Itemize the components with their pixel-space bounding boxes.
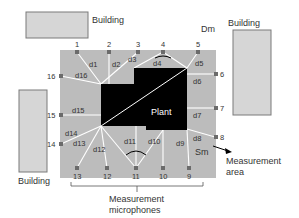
- microphone-11: [134, 166, 138, 170]
- label-d10: d10: [148, 137, 161, 146]
- label-d3: d3: [128, 55, 136, 64]
- microphones-label-line1: Measurement: [109, 194, 165, 204]
- mic-label-3: 3: [136, 40, 140, 49]
- label-d11: d11: [124, 137, 136, 146]
- mic-label-15: 15: [47, 111, 55, 120]
- mic-label-8: 8: [220, 133, 224, 142]
- microphone-10: [161, 166, 165, 170]
- microphone-8: [214, 135, 218, 139]
- plant-measurement-diagram: Building Building Building Dm Plant d1 d…: [0, 0, 299, 218]
- microphone-5: [196, 50, 200, 54]
- label-d5: d5: [195, 59, 203, 68]
- label-d12: d12: [93, 145, 106, 154]
- label-d13: d13: [73, 139, 86, 148]
- microphone-15: [59, 113, 63, 117]
- mic-label-13: 13: [73, 172, 81, 181]
- mic-label-2: 2: [107, 40, 111, 49]
- dm-label: Dm: [201, 24, 215, 34]
- microphone-14: [59, 142, 63, 146]
- microphone-2: [107, 50, 111, 54]
- label-d16: d16: [75, 71, 88, 80]
- sm-label: Sm: [195, 147, 209, 157]
- microphone-9: [187, 166, 191, 170]
- building-left-label: Building: [18, 176, 50, 186]
- arrowhead-icon: [225, 148, 232, 154]
- microphones-brace: [71, 182, 203, 192]
- measurement-area-label-line1: Measurement: [226, 156, 282, 166]
- mic-label-4: 4: [161, 40, 165, 49]
- microphone-12: [105, 166, 109, 170]
- mic-label-14: 14: [47, 140, 55, 149]
- mic-label-1: 1: [75, 40, 79, 49]
- microphone-4: [161, 50, 165, 54]
- building-right-label: Building: [228, 18, 260, 28]
- plant-label: Plant: [151, 107, 172, 117]
- label-d7: d7: [193, 111, 201, 120]
- building-top-label: Building: [92, 15, 124, 25]
- label-d14: d14: [65, 129, 78, 138]
- mic-label-12: 12: [103, 172, 111, 181]
- measurement-area-label-line2: area: [226, 167, 244, 177]
- microphone-7: [214, 106, 218, 110]
- mic-label-6: 6: [220, 70, 224, 79]
- microphone-6: [214, 72, 218, 76]
- mic-label-9: 9: [187, 172, 191, 181]
- label-d9: d9: [176, 139, 184, 148]
- label-d8: d8: [193, 134, 201, 143]
- building-left: [19, 90, 47, 172]
- microphone-3: [136, 50, 140, 54]
- label-d4: d4: [153, 59, 161, 68]
- mic-label-5: 5: [196, 40, 200, 49]
- mic-label-11: 11: [132, 172, 140, 181]
- label-d6: d6: [193, 77, 201, 86]
- building-top: [26, 12, 88, 38]
- microphone-13: [75, 166, 79, 170]
- microphone-1: [75, 50, 79, 54]
- mic-label-16: 16: [47, 72, 55, 81]
- mic-label-7: 7: [220, 104, 224, 113]
- mic-label-10: 10: [159, 172, 167, 181]
- label-d1: d1: [89, 60, 97, 69]
- label-d15: d15: [72, 106, 85, 115]
- building-right: [233, 30, 271, 115]
- microphones-label-line2: microphones: [109, 205, 161, 215]
- label-d2: d2: [112, 60, 120, 69]
- microphone-16: [59, 74, 63, 78]
